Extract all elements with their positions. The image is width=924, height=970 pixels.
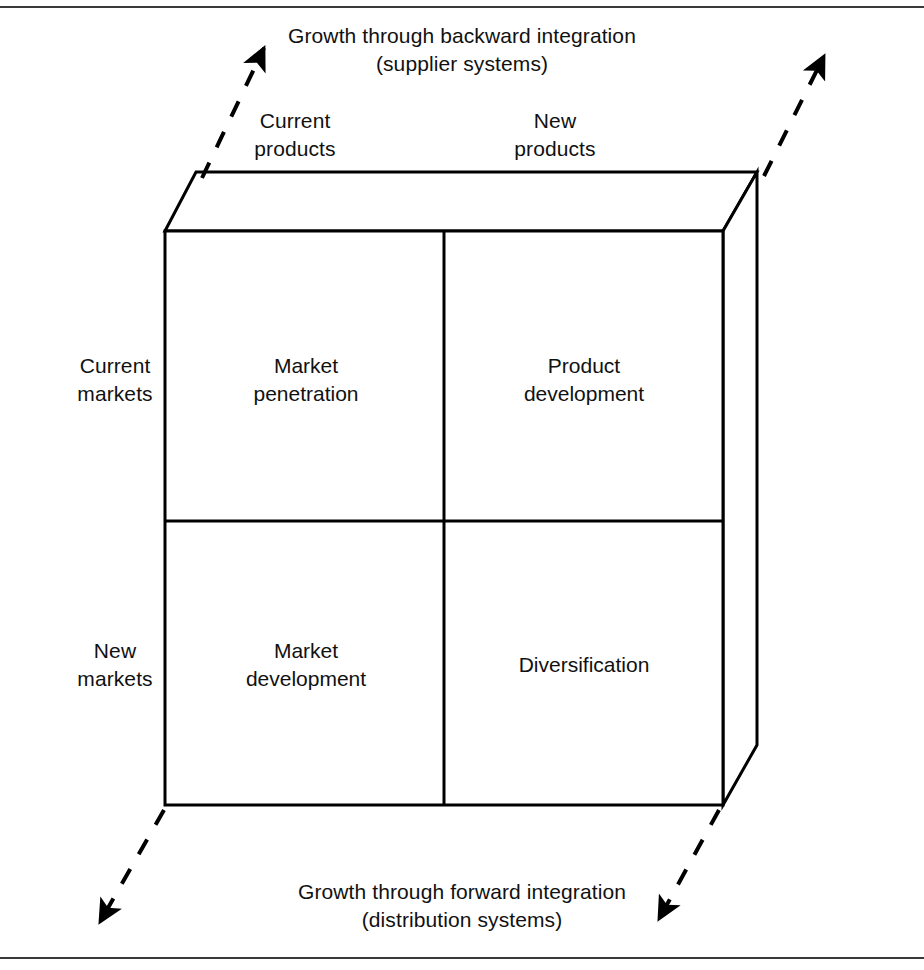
cube-top-face bbox=[165, 172, 757, 231]
forward-integration-axis-label: Growth through forward integration (dist… bbox=[262, 878, 662, 933]
row-header-new-markets: New markets bbox=[25, 637, 205, 692]
backward-integration-axis-label: Growth through backward integration (sup… bbox=[262, 22, 662, 77]
figure-container: Growth through backward integration (sup… bbox=[0, 0, 924, 970]
bottom-left-arrow bbox=[100, 810, 164, 922]
column-header-new-products: New products bbox=[460, 107, 650, 162]
cell-diversification: Diversification bbox=[460, 651, 708, 679]
bottom-right-arrow bbox=[659, 810, 719, 919]
cell-market-development: Market development bbox=[184, 637, 428, 693]
top-right-arrow bbox=[764, 56, 824, 176]
row-header-current-markets: Current markets bbox=[25, 352, 205, 407]
cell-market-penetration: Market penetration bbox=[184, 352, 428, 408]
cell-product-development: Product development bbox=[460, 352, 708, 408]
column-header-current-products: Current products bbox=[200, 107, 390, 162]
cube-right-face bbox=[723, 172, 757, 805]
